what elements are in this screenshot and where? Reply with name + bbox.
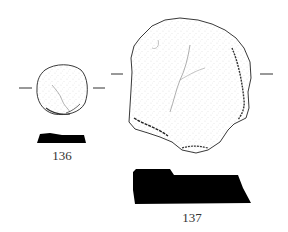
artifact-136-section bbox=[37, 133, 86, 143]
artifact-137-plan bbox=[129, 18, 251, 153]
artifact-136-plan bbox=[37, 65, 87, 115]
artifact-137-section bbox=[133, 169, 251, 204]
artifact-label-137: 137 bbox=[172, 210, 212, 226]
artifact-plate bbox=[0, 0, 288, 232]
artifact-label-136: 136 bbox=[42, 148, 82, 164]
